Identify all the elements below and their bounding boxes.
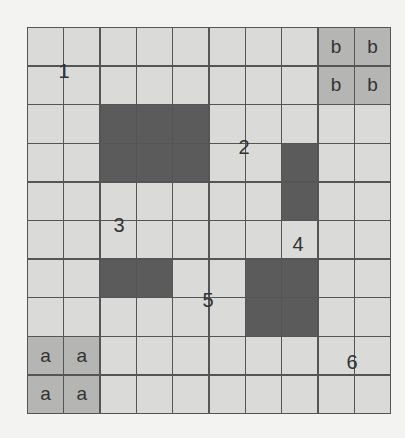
empty-cell bbox=[246, 183, 281, 220]
empty-cell bbox=[28, 183, 63, 220]
blocked-cell bbox=[246, 260, 281, 297]
empty-cell bbox=[210, 28, 245, 65]
empty-cell bbox=[210, 337, 245, 374]
empty-cell bbox=[355, 221, 390, 258]
empty-cell bbox=[319, 376, 354, 413]
empty-cell bbox=[355, 144, 390, 181]
empty-cell bbox=[101, 298, 136, 335]
region-label-6: 6 bbox=[346, 352, 357, 372]
blocked-cell bbox=[246, 298, 281, 335]
empty-cell bbox=[282, 337, 317, 374]
region-label-5: 5 bbox=[202, 290, 213, 310]
empty-cell bbox=[319, 105, 354, 142]
grid-map: bbbbaaaa bbox=[27, 27, 391, 414]
empty-cell bbox=[64, 298, 99, 335]
empty-cell bbox=[282, 376, 317, 413]
empty-cell bbox=[246, 67, 281, 104]
cell-letter: b bbox=[367, 74, 378, 96]
cell-letter: a bbox=[40, 345, 51, 367]
empty-cell bbox=[64, 105, 99, 142]
empty-cell bbox=[355, 105, 390, 142]
lettered-cell: a bbox=[28, 376, 63, 413]
empty-cell bbox=[210, 183, 245, 220]
empty-cell bbox=[319, 298, 354, 335]
empty-cell bbox=[28, 298, 63, 335]
cell-letter: a bbox=[40, 383, 51, 405]
empty-cell bbox=[137, 298, 172, 335]
empty-cell bbox=[173, 376, 208, 413]
cell-letter: b bbox=[331, 74, 342, 96]
cell-letter: b bbox=[367, 36, 378, 58]
blocked-cell bbox=[101, 105, 136, 142]
empty-cell bbox=[355, 376, 390, 413]
empty-cell bbox=[173, 337, 208, 374]
empty-cell bbox=[173, 28, 208, 65]
blocked-cell bbox=[173, 144, 208, 181]
blocked-cell bbox=[137, 144, 172, 181]
empty-cell bbox=[137, 337, 172, 374]
blocked-cell bbox=[137, 105, 172, 142]
empty-cell bbox=[355, 183, 390, 220]
blocked-cell bbox=[282, 144, 317, 181]
empty-cell bbox=[28, 105, 63, 142]
blocked-cell bbox=[282, 183, 317, 220]
cell-letter: b bbox=[331, 36, 342, 58]
lettered-cell: a bbox=[64, 376, 99, 413]
empty-cell bbox=[101, 337, 136, 374]
empty-cell bbox=[282, 67, 317, 104]
empty-cell bbox=[319, 221, 354, 258]
empty-cell bbox=[210, 67, 245, 104]
empty-cell bbox=[28, 144, 63, 181]
empty-cell bbox=[246, 221, 281, 258]
empty-cell bbox=[319, 260, 354, 297]
blocked-cell bbox=[282, 298, 317, 335]
empty-cell bbox=[101, 28, 136, 65]
empty-cell bbox=[137, 67, 172, 104]
lettered-cell: b bbox=[355, 67, 390, 104]
empty-cell bbox=[246, 337, 281, 374]
cell-letter: a bbox=[77, 345, 88, 367]
empty-cell bbox=[319, 183, 354, 220]
empty-cell bbox=[101, 67, 136, 104]
empty-cell bbox=[64, 221, 99, 258]
lettered-cell: a bbox=[28, 337, 63, 374]
empty-cell bbox=[137, 221, 172, 258]
empty-cell bbox=[319, 144, 354, 181]
region-label-3: 3 bbox=[113, 215, 124, 235]
empty-cell bbox=[173, 67, 208, 104]
empty-cell bbox=[355, 260, 390, 297]
lettered-cell: a bbox=[64, 337, 99, 374]
empty-cell bbox=[246, 376, 281, 413]
empty-cell bbox=[28, 260, 63, 297]
lettered-cell: b bbox=[319, 67, 354, 104]
empty-cell bbox=[355, 298, 390, 335]
lettered-cell: b bbox=[355, 28, 390, 65]
region-label-4: 4 bbox=[292, 234, 303, 254]
empty-cell bbox=[101, 376, 136, 413]
empty-cell bbox=[173, 183, 208, 220]
empty-cell bbox=[137, 28, 172, 65]
region-label-1: 1 bbox=[58, 61, 69, 81]
empty-cell bbox=[137, 183, 172, 220]
empty-cell bbox=[246, 105, 281, 142]
blocked-cell bbox=[282, 260, 317, 297]
empty-cell bbox=[282, 105, 317, 142]
empty-cell bbox=[64, 67, 99, 104]
empty-cell bbox=[64, 183, 99, 220]
empty-cell bbox=[210, 221, 245, 258]
empty-cell bbox=[137, 376, 172, 413]
blocked-cell bbox=[101, 260, 136, 297]
blocked-cell bbox=[173, 105, 208, 142]
empty-cell bbox=[282, 28, 317, 65]
empty-cell bbox=[64, 260, 99, 297]
empty-cell bbox=[355, 337, 390, 374]
empty-cell bbox=[64, 28, 99, 65]
cell-letter: a bbox=[77, 383, 88, 405]
empty-cell bbox=[246, 28, 281, 65]
empty-cell bbox=[210, 376, 245, 413]
lettered-cell: b bbox=[319, 28, 354, 65]
empty-cell bbox=[210, 260, 245, 297]
empty-cell bbox=[64, 144, 99, 181]
empty-cell bbox=[246, 144, 281, 181]
empty-cell bbox=[173, 221, 208, 258]
